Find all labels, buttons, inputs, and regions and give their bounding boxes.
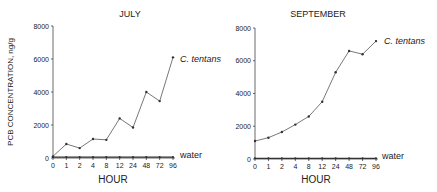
- x-tick-label: 2: [78, 162, 82, 169]
- series-label-c-tentans-september: C. tentans: [384, 36, 426, 46]
- data-point: [267, 157, 269, 159]
- series-label-water-july: water: [179, 150, 202, 160]
- data-point: [65, 156, 67, 158]
- data-point: [92, 156, 94, 158]
- series-line-c-tentans: [255, 41, 376, 141]
- plot-area-september: [254, 40, 377, 160]
- y-tick-label: 6000: [235, 57, 251, 64]
- x-axis-label-september: HOUR: [301, 174, 330, 185]
- data-point: [92, 138, 94, 140]
- x-tick-label: 2: [280, 163, 284, 170]
- data-point: [294, 157, 296, 159]
- x-tick-label: 8: [307, 163, 311, 170]
- chart-title-july: JULY: [119, 9, 140, 19]
- data-point: [321, 157, 323, 159]
- data-point: [145, 156, 147, 158]
- data-point: [308, 157, 310, 159]
- x-tick-label: 96: [372, 163, 380, 170]
- x-tick-label: 1: [64, 162, 68, 169]
- data-point: [158, 100, 160, 102]
- data-point: [145, 91, 147, 93]
- data-point: [254, 157, 256, 159]
- data-point: [52, 156, 54, 158]
- chart-july: JULY HOUR 020004000600080000124812244872…: [33, 9, 221, 185]
- x-tick-label: 72: [156, 162, 164, 169]
- x-tick-label: 24: [129, 162, 137, 169]
- x-tick-label: 4: [91, 162, 95, 169]
- y-tick-label: 8000: [33, 23, 49, 30]
- x-tick-label: 48: [142, 162, 150, 169]
- data-point: [267, 137, 269, 139]
- data-point: [281, 131, 283, 133]
- data-point: [172, 56, 174, 58]
- y-axis-label: PCB CONCENTRATION, ng/g: [6, 38, 15, 146]
- x-tick-label: 12: [318, 163, 326, 170]
- axes-september: 02000400060008000012481224487296: [235, 25, 380, 171]
- y-tick-label: 2000: [33, 122, 49, 129]
- data-point: [118, 117, 120, 119]
- data-point: [361, 157, 363, 159]
- y-tick-label: 8000: [235, 25, 251, 32]
- chart-title-september: SEPTEMBER: [290, 9, 346, 19]
- data-point: [321, 100, 323, 102]
- data-point: [132, 126, 134, 128]
- x-tick-label: 8: [104, 162, 108, 169]
- y-tick-label: 2000: [235, 123, 251, 130]
- data-point: [335, 157, 337, 159]
- x-tick-label: 4: [293, 163, 297, 170]
- data-point: [159, 156, 161, 158]
- data-point: [105, 139, 107, 141]
- y-tick-label: 0: [45, 155, 49, 162]
- chart-september: SEPTEMBER HOUR 0200040006000800001248122…: [235, 9, 425, 185]
- x-tick-label: 12: [116, 162, 124, 169]
- figure: PCB CONCENTRATION, ng/g JULY HOUR 020004…: [0, 0, 437, 192]
- data-point: [375, 157, 377, 159]
- y-tick-label: 4000: [33, 89, 49, 96]
- series-label-c-tentans-july: C. tentans: [180, 54, 222, 64]
- data-point: [348, 157, 350, 159]
- series-label-water-september: water: [381, 151, 404, 161]
- data-point: [254, 140, 256, 142]
- data-point: [119, 156, 121, 158]
- x-tick-label: 24: [332, 163, 340, 170]
- x-tick-label: 48: [345, 163, 353, 170]
- data-point: [132, 156, 134, 158]
- x-tick-label: 96: [169, 162, 177, 169]
- data-point: [361, 53, 363, 55]
- y-tick-label: 6000: [33, 56, 49, 63]
- data-point: [79, 156, 81, 158]
- y-tick-label: 4000: [235, 90, 251, 97]
- plot-area-july: [52, 56, 174, 158]
- data-point: [65, 143, 67, 145]
- data-point: [294, 123, 296, 125]
- data-point: [308, 115, 310, 117]
- series-line-c-tentans: [53, 57, 173, 156]
- y-tick-label: 0: [247, 156, 251, 163]
- data-point: [105, 156, 107, 158]
- data-point: [172, 156, 174, 158]
- axes-july: 02000400060008000012481224487296: [33, 23, 177, 170]
- data-point: [348, 50, 350, 52]
- data-point: [78, 147, 80, 149]
- data-point: [281, 157, 283, 159]
- x-tick-label: 72: [359, 163, 367, 170]
- x-tick-label: 0: [51, 162, 55, 169]
- x-axis-label-july: HOUR: [98, 174, 127, 185]
- x-tick-label: 0: [253, 163, 257, 170]
- data-point: [375, 40, 377, 42]
- data-point: [334, 71, 336, 73]
- x-tick-label: 1: [266, 163, 270, 170]
